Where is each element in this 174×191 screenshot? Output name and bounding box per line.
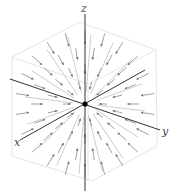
vector-arrow	[113, 95, 122, 97]
origin-point	[82, 101, 87, 106]
vector-arrow	[137, 129, 149, 135]
vector-arrow	[96, 110, 138, 137]
vector-arrow	[116, 42, 123, 53]
vector-arrow	[97, 105, 145, 111]
vector-arrow	[128, 56, 138, 65]
vector-arrow	[58, 55, 64, 65]
vector-arrow	[118, 133, 127, 141]
vector-arrow	[93, 113, 123, 158]
vector-arrow	[69, 131, 73, 140]
vector-arrow	[98, 68, 102, 77]
vector-arrow	[21, 73, 33, 79]
vector-arrow	[69, 68, 73, 77]
vector-arrow	[47, 50, 77, 95]
vector-arrow	[16, 94, 29, 96]
vector-arrow	[107, 123, 114, 129]
vector-arrow	[79, 116, 84, 174]
vector-arrow	[128, 143, 138, 152]
vector-arrow	[39, 112, 76, 149]
vector-arrow	[106, 143, 112, 153]
vector-arrow	[113, 111, 122, 113]
vector-arrow	[76, 48, 78, 59]
vector-arrow	[141, 94, 154, 96]
z-axis-label: z	[81, 3, 87, 14]
vector-arrow	[88, 115, 102, 171]
vector-arrow	[96, 84, 142, 101]
vector-arrow	[32, 56, 42, 65]
vector-arrow	[137, 73, 149, 79]
vector-arrow	[76, 149, 78, 160]
y-axis-label: y	[162, 126, 168, 137]
vector-arrow	[92, 48, 94, 59]
x-axis-label: x	[14, 137, 20, 148]
vector-arrow	[48, 95, 57, 97]
vector-field-diagram	[0, 0, 174, 191]
vector-arrow	[65, 162, 69, 175]
vector-arrow	[28, 107, 74, 124]
vector-arrow	[141, 112, 154, 114]
vector-arrow	[47, 154, 54, 165]
vector-arrow	[16, 112, 29, 114]
vector-arrow	[92, 149, 94, 160]
vector-arrow	[98, 131, 102, 140]
vector-arrow	[55, 79, 62, 85]
vector-arrow	[68, 37, 82, 93]
vector-arrow	[32, 143, 42, 152]
vector-arrow	[48, 111, 57, 113]
vector-arrow	[78, 119, 80, 126]
vector-arrow	[101, 33, 105, 46]
vector-arrow	[44, 68, 53, 76]
